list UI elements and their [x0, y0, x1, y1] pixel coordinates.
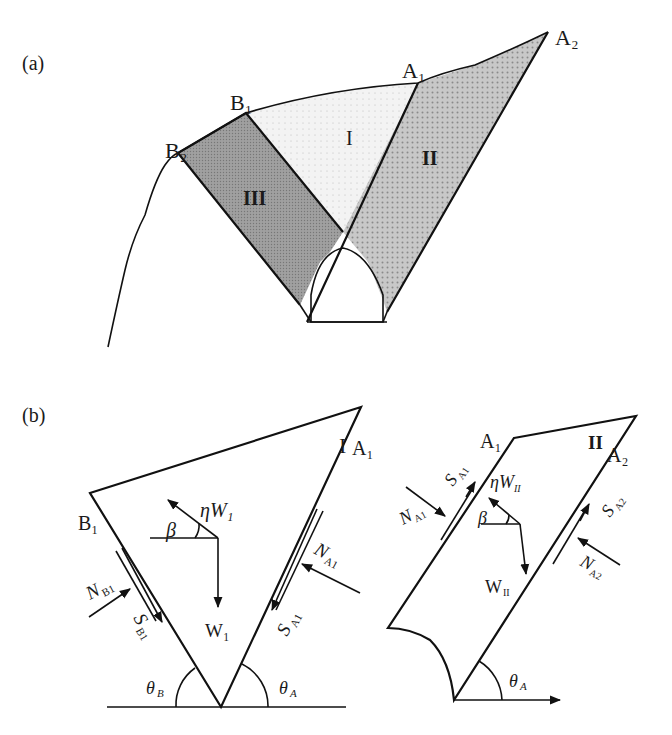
beta-arc: [506, 515, 509, 524]
svg-text:A1: A1: [287, 612, 304, 630]
label-beta: β: [165, 519, 176, 542]
label-block-I: I: [346, 127, 353, 149]
block-I-free-body: I A₁ B₁ ηW₁ β W₁ N B1 S B1 N A1 S A1: [78, 407, 373, 707]
theta-B-arc: [176, 668, 195, 707]
label-B2: B₂: [165, 138, 187, 163]
label-B1: B₁: [230, 90, 252, 115]
svg-text:A1: A1: [455, 465, 471, 481]
block-II-parallelogram: [388, 416, 636, 700]
label-eta-w1: ηW₁: [200, 499, 234, 522]
label-s-a1: S A1: [272, 607, 304, 640]
label-w1: W₁: [205, 620, 230, 641]
block-II-free-body: A₁ A₂ II ηW II β W II S A1 N A1 S A2: [388, 416, 636, 700]
label-A2: A₂: [555, 25, 579, 50]
label-block-II: II: [588, 432, 603, 453]
label-B1: B₁: [78, 512, 98, 534]
svg-text:θ: θ: [509, 671, 518, 691]
panel-b: (b) I A₁ B₁ ηW₁ β W₁: [22, 404, 636, 707]
theta-a-arc: [479, 661, 502, 700]
svg-text:W: W: [485, 577, 502, 597]
label-n-a1: N A1: [395, 499, 428, 531]
s-a1-line: [276, 511, 323, 610]
svg-text:II: II: [513, 483, 521, 494]
svg-text:A: A: [519, 680, 527, 692]
tunnel-left-wall: [300, 305, 311, 322]
svg-text:θ: θ: [146, 678, 155, 698]
s-a1-arrow: [272, 509, 317, 610]
w2-arrow: [520, 524, 526, 574]
label-A1: A₁: [352, 437, 373, 459]
label-eta-w2: ηW II: [490, 472, 521, 494]
label-A1: A₁: [480, 430, 501, 452]
label-s-b1: S B1: [128, 610, 160, 643]
svg-text:B: B: [157, 687, 164, 699]
label-block-III: III: [243, 187, 267, 209]
label-s-a1: S A1: [440, 459, 471, 491]
svg-text:II: II: [503, 587, 510, 598]
s-b1-line: [116, 551, 156, 621]
label-theta-b: θ B: [146, 678, 164, 699]
eta-w2-arrow: [489, 498, 520, 524]
label-theta-a: θ A: [279, 678, 297, 699]
s-a1-arrow: [466, 482, 475, 497]
block-II-region: [343, 32, 548, 312]
wedge-diagram: (a) B₂ B₁ A₁ A₂ I II III (b): [0, 0, 672, 735]
label-s-a2: S A2: [597, 490, 628, 522]
theta-A-arc: [242, 664, 268, 707]
label-A1: A₁: [402, 58, 426, 83]
s-a1-line: [441, 488, 473, 540]
svg-text:A: A: [289, 687, 297, 699]
panel-a-label: (a): [22, 52, 44, 75]
label-n-b1: N B1: [81, 572, 116, 605]
label-beta: β: [477, 508, 487, 528]
svg-text:θ: θ: [279, 678, 288, 698]
svg-text:A2: A2: [612, 496, 628, 512]
label-theta-a: θ A: [509, 671, 527, 692]
s-b1-arrow: [122, 548, 162, 622]
panel-b-label: (b): [22, 404, 45, 427]
svg-text:B1: B1: [134, 625, 151, 642]
label-block-I: I: [339, 433, 346, 458]
label-w2: W II: [485, 577, 510, 598]
svg-text:ηW: ηW: [490, 472, 516, 492]
s-a2-arrow: [580, 504, 589, 521]
beta-arc: [195, 523, 199, 538]
label-A2: A₂: [607, 444, 628, 466]
panel-a: (a) B₂ B₁ A₁ A₂ I II III: [22, 25, 579, 347]
svg-text:S: S: [130, 610, 153, 629]
label-n-a1: N A1: [309, 538, 345, 572]
label-block-II: II: [422, 147, 438, 169]
n-a1-arrow: [406, 487, 445, 516]
